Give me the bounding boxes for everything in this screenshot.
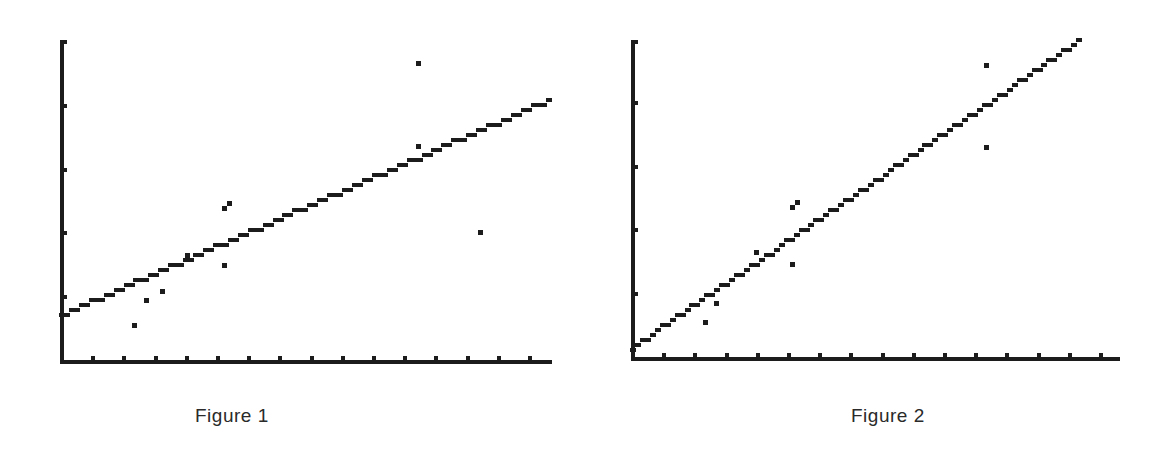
fitted-line-segment (357, 183, 363, 187)
fitted-line-segment (461, 138, 467, 142)
x-tick (247, 356, 251, 361)
data-point (984, 145, 989, 150)
x-tick (216, 356, 220, 361)
data-point (416, 144, 421, 149)
fitted-line-segment (1037, 68, 1043, 72)
fitted-line-segment (769, 253, 775, 257)
data-point (416, 61, 421, 66)
data-point (185, 253, 190, 258)
y-axis-top-tick (62, 40, 67, 44)
fitted-line-segment (947, 128, 953, 132)
fitted-line-segment (645, 338, 651, 342)
fitted-line-segment (506, 118, 512, 122)
fitted-line-segment (268, 223, 274, 227)
fitted-line-segment (1022, 78, 1028, 82)
fitted-line-segment (670, 318, 676, 322)
fitted-line-segment (1002, 93, 1008, 97)
fitted-line-segment (774, 248, 780, 252)
fitted-line-segment (208, 248, 214, 252)
y-axis (631, 40, 635, 360)
fitted-line-segment (99, 298, 105, 302)
fitted-line-segment (481, 128, 487, 132)
fitted-line-segment (258, 228, 264, 232)
fitted-line-segment (526, 108, 532, 112)
fitted-line-segment (436, 148, 442, 152)
data-point (478, 230, 483, 235)
y-axis-top-tick (633, 40, 638, 44)
fitted-line-segment (903, 158, 909, 162)
fitted-line-segment (302, 208, 308, 212)
fitted-line-segment (84, 303, 90, 307)
fitted-line-segment (883, 173, 889, 177)
fitted-line-segment (1056, 53, 1062, 57)
data-point (144, 298, 149, 303)
data-point (222, 206, 227, 211)
data-point (754, 250, 759, 255)
fitted-line-segment (744, 268, 750, 272)
fitted-line-segment (1007, 88, 1013, 92)
fitted-line-segment (848, 198, 854, 202)
fitted-line-segment (927, 143, 933, 147)
fitted-line-segment (833, 208, 839, 212)
fitted-line-segment (64, 313, 70, 317)
fitted-line-segment (838, 203, 844, 207)
fitted-line-segment (178, 263, 184, 267)
x-tick (122, 356, 126, 361)
data-point (790, 262, 795, 267)
fitted-line-segment (233, 238, 239, 242)
fitted-line-segment (977, 108, 983, 112)
fitted-line-segment (794, 233, 800, 237)
fitted-line-segment (1012, 83, 1018, 87)
fitted-line-segment (417, 158, 423, 162)
data-point (703, 320, 708, 325)
figure-1: Figure 1 (0, 0, 585, 455)
fitted-line-segment (808, 223, 814, 227)
data-point (795, 200, 800, 205)
x-tick (372, 356, 376, 361)
y-tick (62, 104, 67, 108)
x-tick (725, 353, 729, 358)
fitted-line-segment (347, 188, 353, 192)
y-tick (633, 292, 638, 296)
data-point (984, 63, 989, 68)
fitted-line-segment (878, 178, 884, 182)
x-tick (662, 353, 666, 358)
fitted-line-segment (804, 228, 810, 232)
y-tick (62, 295, 67, 299)
x-tick (310, 356, 314, 361)
x-tick (466, 356, 470, 361)
fitted-line-segment (1027, 73, 1033, 77)
x-tick (881, 353, 885, 358)
fitted-line-segment (153, 273, 159, 277)
fitted-line-segment (709, 293, 715, 297)
x-tick (787, 353, 791, 358)
fitted-line-segment (427, 153, 433, 157)
x-tick (1037, 353, 1041, 358)
fitted-line-segment (402, 163, 408, 167)
x-tick (1099, 353, 1103, 358)
fitted-line-segment (223, 243, 229, 247)
fitted-line-segment (496, 123, 502, 127)
fitted-line-segment (630, 348, 636, 352)
fitted-line-segment (198, 253, 204, 257)
fitted-line-segment (471, 133, 477, 137)
figure-2-plot (585, 0, 1169, 455)
fitted-line-segment (119, 288, 125, 292)
data-point (227, 201, 232, 206)
fitted-line-segment (932, 138, 938, 142)
fitted-line-segment (1076, 38, 1082, 42)
fitted-line-segment (337, 193, 343, 197)
fitted-line-segment (779, 243, 785, 247)
x-tick (1068, 353, 1072, 358)
fitted-line-segment (278, 218, 284, 222)
fitted-line-segment (163, 268, 169, 272)
fitted-line-segment (1071, 43, 1077, 47)
fitted-line-segment (392, 168, 398, 172)
fitted-line-segment (1041, 63, 1047, 67)
fitted-line-segment (243, 233, 249, 237)
fitted-line-segment (987, 103, 993, 107)
x-tick (849, 353, 853, 358)
x-tick (943, 353, 947, 358)
fitted-line-segment (863, 188, 869, 192)
figure-2-caption: Figure 2 (851, 405, 925, 427)
